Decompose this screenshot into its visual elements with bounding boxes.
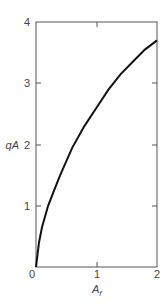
plot-frame <box>36 22 157 267</box>
y-ticks <box>36 83 157 206</box>
chart: 4 3 2 1 0 1 2 qA Af <box>0 0 168 304</box>
y-tick-label-4: 4 <box>24 16 30 28</box>
y-tick-label-1: 1 <box>24 200 30 212</box>
y-tick-label-3: 3 <box>24 77 30 89</box>
y-tick-label-2: 2 <box>24 139 30 151</box>
x-tick-label-2: 2 <box>154 268 160 280</box>
x-axis-label: Af <box>91 283 102 298</box>
y-axis-label: qA <box>6 139 19 151</box>
data-curve <box>36 40 157 267</box>
x-tick-label-0: 0 <box>29 268 35 280</box>
x-tick-label-1: 1 <box>94 268 100 280</box>
